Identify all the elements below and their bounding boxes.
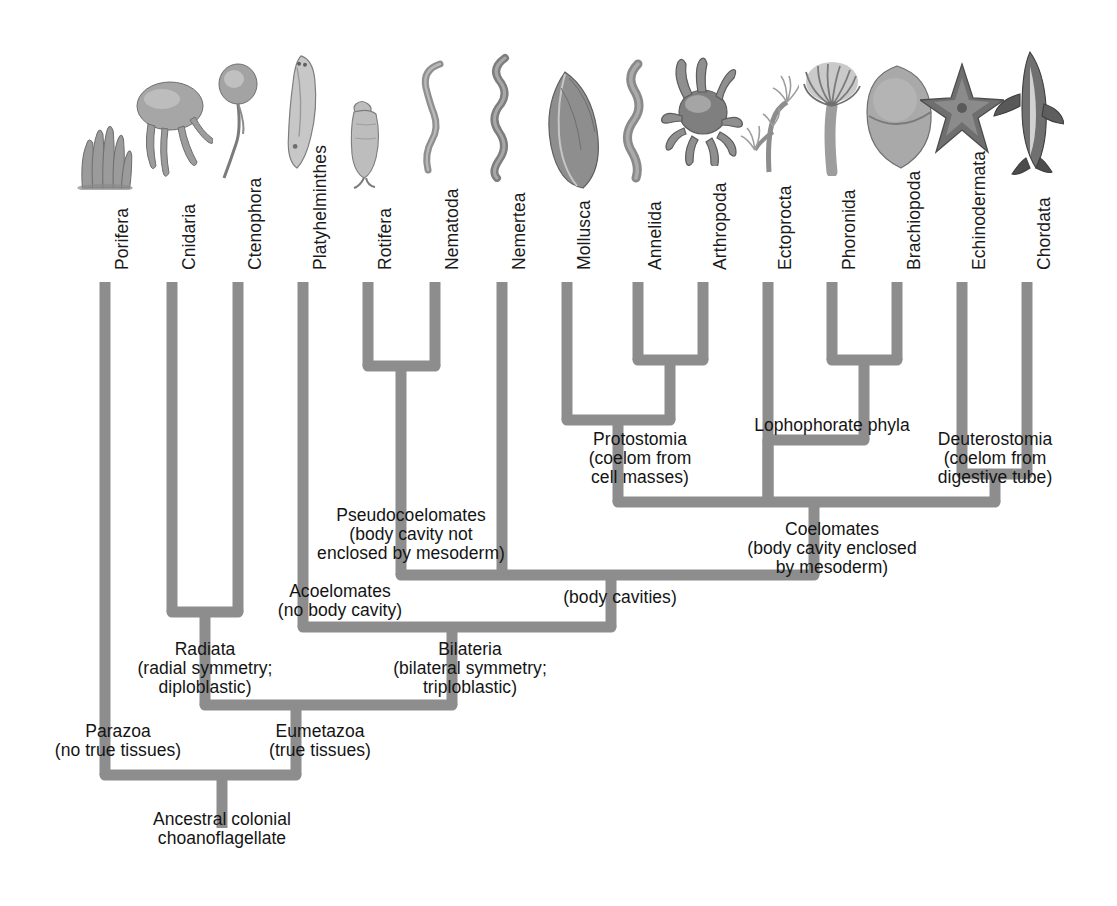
- node-label-body-cavities: (body cavities): [563, 588, 677, 607]
- node-label-line: (body cavity not: [317, 525, 505, 544]
- node-label-line: digestive tube): [938, 468, 1053, 487]
- node-label-line: (body cavity enclosed: [747, 539, 916, 558]
- taxon-label-cnidaria: Cnidaria: [179, 204, 200, 270]
- taxon-label-arthropoda: Arthropoda: [710, 182, 731, 270]
- node-label-line: enclosed by mesoderm): [317, 544, 505, 563]
- node-label-line: choanoflagellate: [153, 829, 291, 848]
- node-label-line: Eumetazoa: [269, 722, 371, 741]
- node-label-line: cell masses): [589, 468, 692, 487]
- node-label-line: (true tissues): [269, 741, 371, 760]
- node-label-pseudocoelomates: Pseudocoelomates(body cavity notenclosed…: [317, 506, 505, 563]
- taxon-label-nemertea: Nemertea: [509, 192, 530, 270]
- node-label-line: diploblastic): [137, 678, 272, 697]
- node-label-line: (bilateral symmetry;: [393, 659, 547, 678]
- node-label-line: Pseudocoelomates: [317, 506, 505, 525]
- phylogenetic-tree-figure: PoriferaCnidariaCtenophoraPlatyhelminthe…: [0, 0, 1117, 906]
- taxon-label-brachiopoda: Brachiopoda: [904, 171, 925, 270]
- taxon-label-echinodermata: Echinodermata: [969, 151, 990, 270]
- node-label-line: Coelomates: [747, 520, 916, 539]
- node-label-line: Acoelomates: [278, 582, 402, 601]
- taxon-label-annelida: Annelida: [645, 201, 666, 270]
- node-label-line: Radiata: [137, 640, 272, 659]
- taxon-label-nematoda: Nematoda: [442, 188, 463, 270]
- node-label-line: Protostomia: [589, 430, 692, 449]
- node-label-line: Bilateria: [393, 640, 547, 659]
- node-label-line: (radial symmetry;: [137, 659, 272, 678]
- node-label-deuterostomia: Deuterostomia(coelom fromdigestive tube): [938, 430, 1053, 487]
- node-label-parazoa: Parazoa(no true tissues): [55, 722, 181, 760]
- node-label-line: Parazoa: [55, 722, 181, 741]
- node-label-line: triploblastic): [393, 678, 547, 697]
- node-label-line: (coelom from: [938, 449, 1053, 468]
- taxon-label-chordata: Chordata: [1034, 197, 1055, 270]
- node-label-line: (no true tissues): [55, 741, 181, 760]
- node-label-ancestral-root: Ancestral colonialchoanoflagellate: [153, 810, 291, 848]
- taxon-label-phoronida: Phoronida: [839, 189, 860, 270]
- taxon-label-ectoprocta: Ectoprocta: [775, 185, 796, 270]
- node-label-line: (body cavities): [563, 588, 677, 607]
- node-label-line: (coelom from: [589, 449, 692, 468]
- taxon-label-mollusca: Mollusca: [574, 200, 595, 270]
- node-label-line: Deuterostomia: [938, 430, 1053, 449]
- taxon-label-rotifera: Rotifera: [375, 208, 396, 270]
- node-label-acoelomates: Acoelomates(no body cavity): [278, 582, 402, 620]
- node-label-line: Lophophorate phyla: [754, 416, 910, 435]
- node-label-line: Ancestral colonial: [153, 810, 291, 829]
- node-label-protostomia: Protostomia(coelom fromcell masses): [589, 430, 692, 487]
- taxon-label-platyhelminthes: Platyhelminthes: [310, 145, 331, 270]
- node-label-line: (no body cavity): [278, 601, 402, 620]
- node-label-line: by mesoderm): [747, 558, 916, 577]
- node-label-coelomates: Coelomates(body cavity enclosedby mesode…: [747, 520, 916, 577]
- taxon-label-porifera: Porifera: [112, 208, 133, 270]
- node-label-bilateria: Bilateria(bilateral symmetry;triploblast…: [393, 640, 547, 697]
- node-label-radiata: Radiata(radial symmetry;diploblastic): [137, 640, 272, 697]
- node-label-eumetazoa: Eumetazoa(true tissues): [269, 722, 371, 760]
- node-label-lophophorate-phyla: Lophophorate phyla: [754, 416, 910, 435]
- taxon-label-ctenophora: Ctenophora: [245, 178, 266, 270]
